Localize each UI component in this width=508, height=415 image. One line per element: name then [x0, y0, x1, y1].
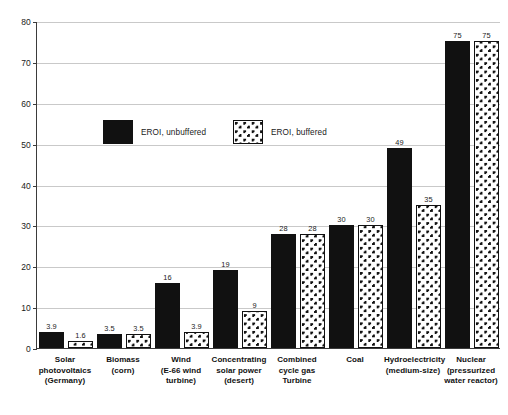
- bar-value-label: 19: [221, 260, 229, 269]
- bars-layer: 3.91.63.53.5163.91992828303049357575: [37, 22, 500, 348]
- bar-group: 3.53.5: [95, 22, 153, 348]
- bar-value-label: 3.9: [46, 322, 57, 331]
- x-axis-category-line: Coal: [326, 355, 384, 366]
- bar-value-label: 1.6: [75, 331, 86, 340]
- bar: 1.6: [68, 341, 93, 348]
- x-axis-category-label: Concentratingsolar power(desert): [210, 355, 268, 387]
- bar: 19: [213, 270, 238, 348]
- bar: 49: [387, 148, 412, 348]
- bar: 3.9: [184, 332, 209, 348]
- x-axis-category-label: Combinedcycle gasTurbine: [268, 355, 326, 387]
- y-tick-label: 50: [21, 140, 31, 150]
- bar-value-label: 30: [366, 215, 374, 224]
- y-tick-mark: [33, 349, 37, 350]
- bar-group: 7575: [443, 22, 501, 348]
- bar: 75: [474, 41, 499, 348]
- bar-value-label: 75: [453, 31, 461, 40]
- y-tick-label: 60: [21, 99, 31, 109]
- bar: 35: [416, 205, 441, 348]
- bar: 3.5: [126, 334, 151, 348]
- bar-group: 3.91.6: [37, 22, 95, 348]
- bar: 16: [155, 283, 180, 348]
- x-axis-category-line: solar power: [210, 366, 268, 377]
- bar-group: 199: [211, 22, 269, 348]
- x-axis-category-line: Hydroelectricity: [384, 355, 442, 366]
- x-axis-category-label: Nuclear(pressurizedwater reactor): [442, 355, 500, 387]
- bar-value-label: 30: [337, 215, 345, 224]
- bar-value-label: 28: [279, 224, 287, 233]
- bar-value-label: 16: [163, 273, 171, 282]
- x-axis-category-label: Coal: [326, 355, 384, 366]
- bar-value-label: 3.5: [133, 324, 144, 333]
- bar: 28: [300, 234, 325, 348]
- y-tick-label: 30: [21, 221, 31, 231]
- x-axis-category-line: Combined: [268, 355, 326, 366]
- x-axis-category-label: Solarphotovoltaics(Germany): [36, 355, 94, 387]
- x-axis-category-line: (E-66 wind: [152, 366, 210, 377]
- bar-value-label: 9: [252, 301, 256, 310]
- bar-chart: 01020304050607080 3.91.63.53.5163.919928…: [0, 0, 508, 415]
- bar: 75: [445, 41, 470, 348]
- y-tick-label: 80: [21, 17, 31, 27]
- bar: 3.9: [39, 332, 64, 348]
- x-axis-category-line: turbine): [152, 376, 210, 387]
- x-axis-category-line: Concentrating: [210, 355, 268, 366]
- y-tick-label: 70: [21, 58, 31, 68]
- x-axis-category-line: Nuclear: [442, 355, 500, 366]
- x-axis-category-label: Wind(E-66 windturbine): [152, 355, 210, 387]
- bar-value-label: 3.5: [104, 324, 115, 333]
- x-axis-category-line: (medium-size): [384, 366, 442, 377]
- bar-group: 4935: [385, 22, 443, 348]
- y-tick-label: 0: [26, 344, 31, 354]
- y-tick-label: 40: [21, 181, 31, 191]
- bar-value-label: 49: [395, 138, 403, 147]
- x-axis-category-line: Biomass: [94, 355, 152, 366]
- x-axis-category-line: (Germany): [36, 376, 94, 387]
- bar: 30: [358, 225, 383, 348]
- bar: 28: [271, 234, 296, 348]
- x-axis-category-line: photovoltaics: [36, 366, 94, 377]
- bar: 9: [242, 311, 267, 348]
- bar-value-label: 28: [308, 224, 316, 233]
- plot-area: 01020304050607080 3.91.63.53.5163.919928…: [36, 22, 500, 349]
- y-tick-label: 20: [21, 262, 31, 272]
- bar-group: 2828: [269, 22, 327, 348]
- x-axis-category-label: Biomass(corn): [94, 355, 152, 376]
- x-axis-category-line: Wind: [152, 355, 210, 366]
- x-axis-category-line: (corn): [94, 366, 152, 377]
- bar-value-label: 75: [482, 31, 490, 40]
- x-axis-category-line: (pressurized: [442, 366, 500, 377]
- bar: 30: [329, 225, 354, 348]
- y-tick-label: 10: [21, 303, 31, 313]
- bar-group: 163.9: [153, 22, 211, 348]
- x-axis-category-line: water reactor): [442, 376, 500, 387]
- x-axis-category-line: cycle gas: [268, 366, 326, 377]
- x-axis-category-line: Solar: [36, 355, 94, 366]
- x-axis-category-label: Hydroelectricity(medium-size): [384, 355, 442, 376]
- bar-group: 3030: [327, 22, 385, 348]
- bar-value-label: 3.9: [191, 322, 202, 331]
- x-axis-category-line: (desert): [210, 376, 268, 387]
- x-axis-category-line: Turbine: [268, 376, 326, 387]
- bar-value-label: 35: [424, 195, 432, 204]
- bar: 3.5: [97, 334, 122, 348]
